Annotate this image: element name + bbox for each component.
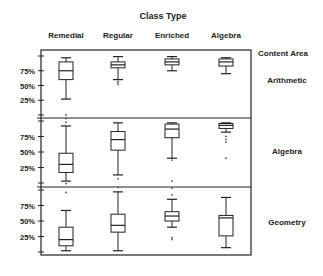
y-tick-label: 25% xyxy=(20,233,35,242)
column-header: Enriched xyxy=(155,31,189,40)
column-header: Algebra xyxy=(211,31,241,40)
outlier-point xyxy=(225,139,227,141)
outlier-point xyxy=(65,192,67,194)
panel-label: Arithmetic xyxy=(267,76,307,85)
outlier-point xyxy=(171,187,173,189)
panels: 25%50%75%Arithmetic25%50%75%Algebra25%50… xyxy=(20,56,307,252)
box-algebra xyxy=(219,58,233,74)
iqr-box xyxy=(111,214,125,232)
outlier-point xyxy=(171,194,173,196)
outlier-point xyxy=(171,237,173,239)
box-remedial xyxy=(59,58,73,116)
column-header: Regular xyxy=(103,31,133,40)
outlier-point xyxy=(225,157,227,159)
outlier-point xyxy=(65,121,67,123)
box-regular xyxy=(111,57,125,86)
outlier-point xyxy=(117,83,119,85)
panel-algebra: 25%50%75%Algebra xyxy=(20,118,302,185)
iqr-box xyxy=(111,132,125,151)
panel-arithmetic: 25%50%75%Arithmetic xyxy=(20,56,307,116)
outlier-point xyxy=(171,239,173,241)
outlier-point xyxy=(171,159,173,161)
y-tick-label: 25% xyxy=(20,164,35,173)
outlier-point xyxy=(117,82,119,84)
box-remedial xyxy=(59,192,73,251)
outlier-point xyxy=(225,141,227,143)
y-tick-label: 50% xyxy=(20,82,35,91)
box-regular xyxy=(111,187,125,251)
box-regular xyxy=(111,123,125,180)
y-tick-label: 75% xyxy=(20,202,35,211)
column-headers: RemedialRegularEnrichedAlgebra xyxy=(48,31,241,40)
box-enriched xyxy=(165,57,179,71)
y-tick-label: 75% xyxy=(20,67,35,76)
outlier-point xyxy=(65,183,67,185)
row-header: Content Area xyxy=(258,49,308,58)
panel-label: Geometry xyxy=(268,218,306,227)
panel-label: Algebra xyxy=(272,147,302,156)
box-remedial xyxy=(59,118,73,185)
iqr-box xyxy=(219,123,233,128)
box-algebra xyxy=(219,123,233,159)
outlier-point xyxy=(171,180,173,182)
chart-title: Class Type xyxy=(140,11,187,21)
outlier-point xyxy=(225,136,227,138)
y-tick-label: 50% xyxy=(20,217,35,226)
y-tick-label: 50% xyxy=(20,148,35,157)
iqr-box xyxy=(59,153,73,172)
iqr-box xyxy=(165,124,179,138)
outlier-point xyxy=(65,114,67,116)
y-tick-label: 25% xyxy=(20,96,35,105)
box-enriched xyxy=(165,123,179,182)
iqr-box xyxy=(59,227,73,246)
box-enriched xyxy=(165,187,179,240)
outlier-point xyxy=(117,187,119,189)
box-algebra xyxy=(219,197,233,247)
y-tick-label: 75% xyxy=(20,133,35,142)
panel-geometry: 25%50%75%Geometry xyxy=(20,187,306,252)
column-header: Remedial xyxy=(48,31,84,40)
boxplot-chart: Class Type RemedialRegularEnrichedAlgebr… xyxy=(0,0,323,276)
outlier-point xyxy=(65,118,67,120)
outlier-point xyxy=(117,178,119,180)
